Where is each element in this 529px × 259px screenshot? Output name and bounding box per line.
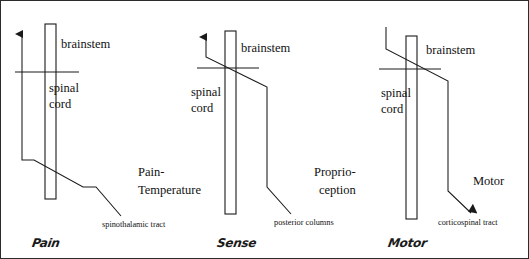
region-label-brainstem-pain: brainstem <box>61 37 110 51</box>
region-label-brainstem-sense: brainstem <box>241 41 290 55</box>
tract-caption-corticospinal: corticospinal tract <box>438 218 498 227</box>
neuraxis-column-sense <box>225 31 236 214</box>
modality-label-motor-line1: Motor <box>473 174 504 188</box>
spinothalamic-tract-path <box>22 34 121 216</box>
modality-label-pain-line2: Temperature <box>138 183 201 197</box>
region-label-brainstem-motor: brainstem <box>426 43 475 57</box>
panel-sense-graphics <box>197 31 291 214</box>
tract-caption-spinothalamic: spinothalamic tract <box>102 220 165 229</box>
modality-label-sense-line2: ception <box>319 183 356 197</box>
region-label-spinal-sense: spinal <box>191 85 221 99</box>
neuraxis-column-pain <box>45 24 56 199</box>
panel-pain-graphics <box>15 24 121 216</box>
modality-label-sense-line1: Proprio- <box>314 165 356 179</box>
modality-label-pain-line1: Pain- <box>138 165 164 179</box>
handwritten-label-motor: Motor <box>387 237 428 250</box>
handwritten-label-sense: Sense <box>216 237 257 250</box>
region-label-cord-motor: cord <box>381 102 403 116</box>
pathway-diagram-figure: brainstem spinal cord Pain- Temperature … <box>0 0 529 259</box>
region-label-spinal-pain: spinal <box>49 81 79 95</box>
region-label-cord-sense: cord <box>191 101 213 115</box>
neuraxis-column-motor <box>406 36 417 219</box>
posterior-columns-tract-path <box>206 37 291 214</box>
tract-caption-posterior-columns: posterior columns <box>274 218 334 227</box>
region-label-spinal-motor: spinal <box>381 86 411 100</box>
region-label-cord-pain: cord <box>49 97 71 111</box>
handwritten-label-pain: Pain <box>31 237 61 250</box>
